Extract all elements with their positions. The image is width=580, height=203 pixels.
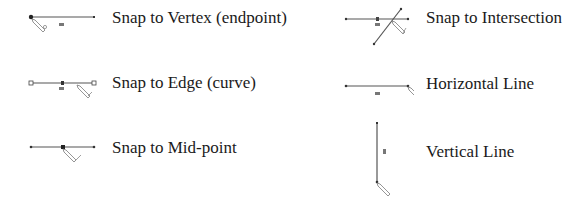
legend-label: Snap to Mid-point: [112, 138, 237, 158]
legend-label: Snap to Vertex (endpoint): [112, 8, 287, 28]
legend-label: Snap to Intersection: [426, 8, 562, 28]
legend-item-midpoint: Snap to Mid-point: [0, 130, 330, 170]
legend-item-vertical: Vertical Line: [330, 115, 580, 203]
legend-label: Snap to Edge (curve): [112, 73, 256, 93]
snap-edge-icon: [26, 73, 102, 103]
snap-midpoint-icon: [26, 140, 102, 168]
legend-item-intersection: Snap to Intersection: [330, 0, 580, 55]
snap-intersection-icon: [342, 2, 414, 52]
legend-item-vertex: Snap to Vertex (endpoint): [0, 0, 330, 40]
legend-item-edge: Snap to Edge (curve): [0, 65, 330, 105]
horizontal-line-icon: [342, 76, 414, 108]
snap-vertex-icon: [26, 10, 102, 36]
legend-label: Horizontal Line: [426, 74, 534, 94]
vertical-line-icon: [370, 117, 400, 201]
legend-label: Vertical Line: [426, 142, 514, 162]
legend-item-horizontal: Horizontal Line: [330, 70, 580, 115]
